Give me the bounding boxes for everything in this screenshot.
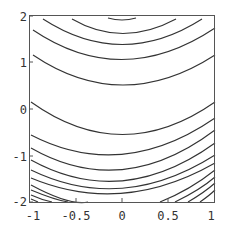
y-tick-labels: 2 1 0 -1 -2 [13,10,27,209]
y-tick-label: 2 [20,10,27,24]
contour-line [33,28,215,60]
x-tick-label: -1 [26,209,40,223]
y-tick-label: -1 [13,150,27,164]
x-tick-labels: -1 -0.5 0 0.5 1 [26,209,215,223]
x-tick-label: 0.5 [157,209,179,223]
x-tick-label: 0 [118,209,125,223]
contour-line [31,183,215,202]
contour-plot: -1 -0.5 0 0.5 1 2 1 0 -1 -2 [0,0,229,234]
y-tick-label: 1 [20,56,27,70]
contour-line [31,102,215,135]
contour-lines [31,18,215,203]
y-tick-label: 0 [20,103,27,117]
x-tick-label: 1 [207,209,214,223]
y-tick-label: -2 [13,195,27,209]
contour-line [31,130,215,170]
contour-line [31,118,215,155]
contour-line [31,170,215,203]
x-tick-label: -0.5 [62,209,91,223]
contour-line [108,18,136,20]
contour-line [43,19,202,45]
contour-line [31,143,215,181]
contour-line [72,19,176,34]
